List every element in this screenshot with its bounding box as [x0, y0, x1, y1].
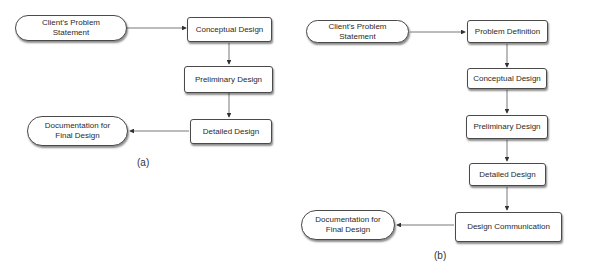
node-label-line1: Client's Problem [42, 18, 100, 28]
node-b-preliminary-design: Preliminary Design [466, 115, 548, 139]
caption-a: (a) [137, 157, 149, 168]
node-label: Detailed Design [479, 170, 535, 180]
node-b-client-problem-statement: Client's Problem Statement [306, 20, 409, 43]
node-label-line1: Documentation for [45, 121, 110, 131]
node-label-line1: Documentation for [315, 215, 380, 225]
node-label-line2: Statement [329, 32, 387, 42]
node-label: Conceptual Design [196, 25, 264, 35]
node-b-conceptual-design: Conceptual Design [467, 68, 547, 89]
node-a-documentation-final-design: Documentation for Final Design [27, 116, 128, 146]
node-b-problem-definition: Problem Definition [467, 20, 548, 43]
node-label-line1: Client's Problem [329, 22, 387, 32]
node-b-documentation-final-design: Documentation for Final Design [301, 210, 395, 240]
node-label: Preliminary Design [195, 75, 262, 85]
node-b-detailed-design: Detailed Design [469, 163, 546, 186]
caption-b: (b) [434, 250, 446, 261]
node-a-conceptual-design: Conceptual Design [187, 17, 272, 42]
node-label-line2: Final Design [315, 225, 380, 235]
node-label: Preliminary Design [473, 122, 540, 132]
node-b-design-communication: Design Communication [455, 212, 562, 242]
node-label: Problem Definition [475, 27, 540, 37]
node-a-detailed-design: Detailed Design [190, 119, 272, 144]
node-a-preliminary-design: Preliminary Design [184, 66, 273, 93]
node-label: Design Communication [467, 222, 550, 232]
node-label: Detailed Design [203, 127, 259, 137]
node-label-line2: Final Design [45, 131, 110, 141]
node-a-client-problem-statement: Client's Problem Statement [15, 15, 127, 41]
node-label: Conceptual Design [473, 74, 541, 84]
node-label-line2: Statement [42, 28, 100, 38]
